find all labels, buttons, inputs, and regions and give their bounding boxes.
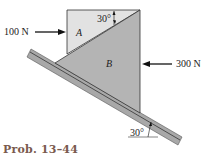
block-a-label: A <box>76 27 82 38</box>
force-right-label: 300 N <box>176 58 201 69</box>
arrow-100n-icon <box>35 29 66 35</box>
angle-top-label: 30° <box>97 13 111 24</box>
figure-caption: Prob. 13–44 <box>3 143 78 156</box>
force-left-label: 100 N <box>4 26 29 37</box>
angle-bottom-label: 30° <box>130 127 144 138</box>
block-b-label: B <box>106 58 112 69</box>
arrow-300n-icon <box>142 61 172 67</box>
